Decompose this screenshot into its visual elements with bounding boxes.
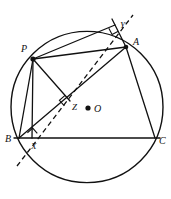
label-point-a: A xyxy=(133,37,139,47)
vertex-dot-a xyxy=(124,45,129,50)
label-point-z: Z xyxy=(72,103,77,112)
label-point-c: C xyxy=(159,136,166,146)
figure-canvas xyxy=(0,0,171,199)
vertex-dot-p xyxy=(30,56,35,61)
perp-pz xyxy=(33,59,70,101)
chord-pb xyxy=(19,59,33,138)
label-point-o: O xyxy=(94,104,101,114)
vertex-dot-o xyxy=(85,105,90,110)
label-point-b: B xyxy=(5,134,11,144)
label-point-p: P xyxy=(21,44,27,54)
geometry-figure: P A B C O X Y Z xyxy=(0,0,171,199)
label-point-x: X xyxy=(31,142,37,151)
side-ac xyxy=(126,47,155,138)
label-point-y: Y xyxy=(120,21,125,30)
